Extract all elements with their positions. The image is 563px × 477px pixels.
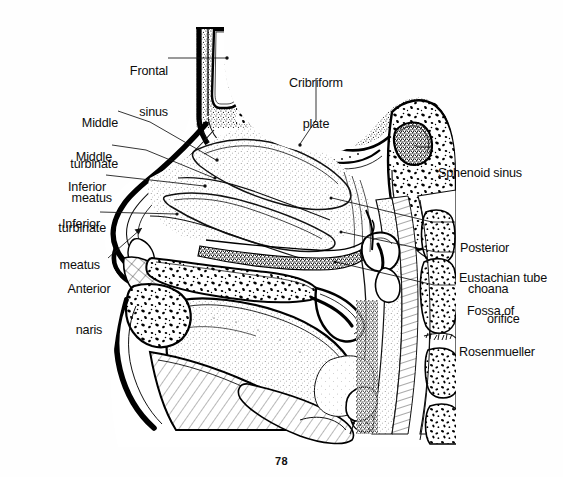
label-sphenoid-sinus-line1: Sphenoid sinus — [438, 167, 558, 181]
label-inferior-meatus-line1: Inferior — [24, 218, 100, 232]
label-frontal-sinus-line1: Frontal — [96, 65, 168, 79]
label-fossa-rosenmueller-line1: Fossa of — [459, 305, 563, 319]
label-fossa-rosenmueller-line2: Rosenmueller — [459, 346, 563, 360]
label-cribriform-plate: Cribriform plate — [264, 50, 368, 145]
page-number: 78 — [0, 455, 563, 467]
label-anterior-naris-line1: Anterior — [50, 283, 128, 297]
cervical-spine — [418, 190, 461, 444]
label-cribriform-plate-line1: Cribriform — [264, 77, 368, 91]
label-sphenoid-sinus: Sphenoid sinus — [438, 140, 558, 194]
label-cribriform-plate-line2: plate — [264, 118, 368, 132]
label-anterior-naris: Anterior naris — [50, 256, 128, 351]
label-fossa-of-rosenmueller: Fossa of Rosenmueller — [459, 278, 563, 373]
label-anterior-naris-line2: naris — [50, 324, 128, 338]
